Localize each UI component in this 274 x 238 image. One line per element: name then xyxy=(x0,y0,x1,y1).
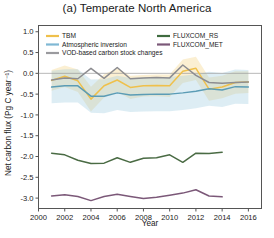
legend-label: FLUXCOM_RS xyxy=(173,32,219,40)
y-tick-label: 1.0 xyxy=(23,27,34,36)
y-tick-label: 0.5 xyxy=(23,48,34,57)
y-tick-label: -2.0 xyxy=(20,152,33,161)
x-axis-label: Year xyxy=(38,219,262,228)
legend-label: VOD-based carbon stock changes xyxy=(62,49,163,57)
y-tick-label: -2.5 xyxy=(20,173,33,182)
y-axis-label: Net carbon flux (Pg C year⁻¹) xyxy=(3,63,13,183)
y-tick-label: -1.0 xyxy=(20,111,33,120)
y-tick-label: -1.5 xyxy=(20,131,33,140)
y-tick-label: -0.5 xyxy=(20,90,33,99)
figure-panel: (a) Temperate North America 1.00.50.0-0.… xyxy=(0,0,274,238)
legend-label: FLUXCOM_MET xyxy=(173,41,223,49)
legend-label: TBM xyxy=(62,32,76,39)
legend-label: Atmospheric inversion xyxy=(62,41,127,49)
y-tick-label: 0.0 xyxy=(23,69,34,78)
chart-canvas: 1.00.50.0-0.5-1.0-1.5-2.0-2.5-3.0 200020… xyxy=(0,0,274,238)
y-tick-label: -3.0 xyxy=(20,194,33,203)
chart-legend: TBMAtmospheric inversionVOD-based carbon… xyxy=(42,29,260,58)
y-axis-ticks: 1.00.50.0-0.5-1.0-1.5-2.0-2.5-3.0 xyxy=(20,27,38,202)
